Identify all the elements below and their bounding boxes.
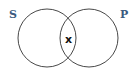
set-label-p: P xyxy=(120,8,128,21)
intersection-mark: x xyxy=(65,33,72,46)
venn-diagram: S P x xyxy=(0,0,134,73)
set-label-s: S xyxy=(9,8,17,21)
